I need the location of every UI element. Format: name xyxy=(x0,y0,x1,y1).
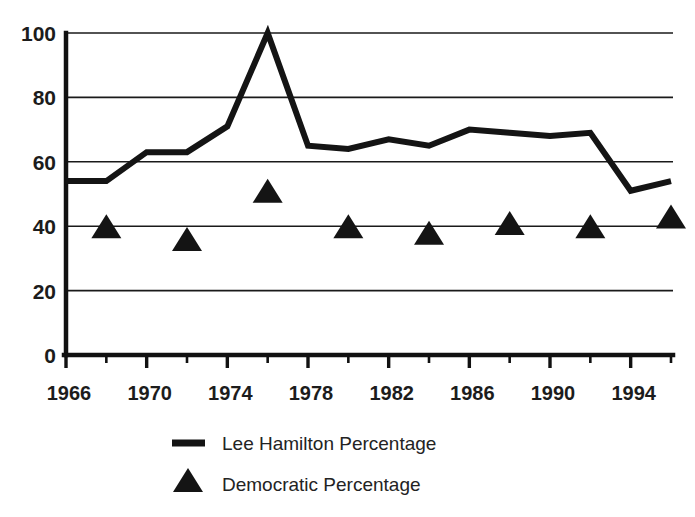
line-chart: 020406080100 196619701974197819821986199… xyxy=(0,0,695,517)
legend-triangle-swatch-icon xyxy=(173,468,203,492)
y-axis-tick-labels-group: 020406080100 xyxy=(21,22,56,367)
x-axis-tick-label-1986: 1986 xyxy=(450,382,495,404)
y-axis-tick-label-20: 20 xyxy=(33,280,56,303)
x-axis-tick-labels-group: 19661970197419781982198619901994 xyxy=(47,382,657,404)
x-axis-tick-label-1994: 1994 xyxy=(611,382,656,404)
legend-item-1-label: Lee Hamilton Percentage xyxy=(222,433,436,454)
y-axis-tick-label-60: 60 xyxy=(33,151,56,174)
x-axis-tick-label-1978: 1978 xyxy=(289,382,334,404)
data-marker-1972 xyxy=(172,227,202,251)
y-axis-tick-label-100: 100 xyxy=(21,22,56,45)
x-axis-tick-label-1982: 1982 xyxy=(369,382,414,404)
legend: Lee Hamilton Percentage Democratic Perce… xyxy=(172,433,436,495)
x-axis-tick-label-1990: 1990 xyxy=(531,382,576,404)
data-marker-1996 xyxy=(656,205,686,229)
x-axis-tick-label-1974: 1974 xyxy=(208,382,253,404)
data-marker-1976 xyxy=(253,179,283,203)
y-axis-tick-label-0: 0 xyxy=(44,344,56,367)
data-marker-1984 xyxy=(414,221,444,245)
democratic-percentage-markers-group xyxy=(91,179,686,251)
chart-container: 020406080100 196619701974197819821986199… xyxy=(0,0,695,517)
legend-item-2-label: Democratic Percentage xyxy=(222,474,421,495)
y-axis-tick-label-80: 80 xyxy=(33,86,56,109)
gridlines-group xyxy=(66,33,673,291)
x-axis-tick-label-1966: 1966 xyxy=(47,382,92,404)
x-axis-tick-label-1970: 1970 xyxy=(127,382,172,404)
data-marker-1988 xyxy=(495,211,525,235)
lee-hamilton-percentage-line xyxy=(66,33,671,191)
y-axis-tick-label-40: 40 xyxy=(33,215,56,238)
